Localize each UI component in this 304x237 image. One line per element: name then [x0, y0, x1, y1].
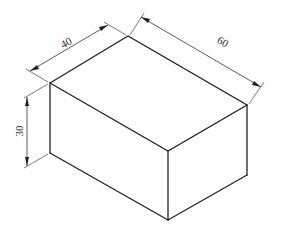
isometric-box-diagram: 40 60 30 [0, 0, 304, 237]
dimension-30: 30 [13, 84, 48, 168]
arrowhead-icon [25, 157, 29, 166]
extension-line [130, 13, 144, 35]
arrowhead-icon [99, 25, 108, 31]
extension-line [26, 69, 48, 82]
bottom-right-edge [168, 175, 247, 220]
arrowhead-icon [25, 97, 29, 106]
arrowhead-icon [252, 81, 261, 87]
arrowhead-icon [141, 17, 150, 23]
extension-line [24, 84, 48, 98]
dimension-line [141, 17, 261, 87]
dimension-label-40: 40 [58, 34, 74, 50]
bottom-left-edge [50, 153, 168, 220]
box-edges [50, 36, 247, 220]
arrowhead-icon [30, 65, 39, 71]
dimension-label-60: 60 [215, 34, 231, 50]
dimension-line [30, 25, 108, 71]
top-face-edges [50, 36, 247, 151]
extension-line [104, 22, 126, 35]
dimension-label-30: 30 [13, 125, 25, 137]
dimension-40: 40 [26, 22, 126, 82]
dimension-60: 60 [130, 13, 264, 104]
